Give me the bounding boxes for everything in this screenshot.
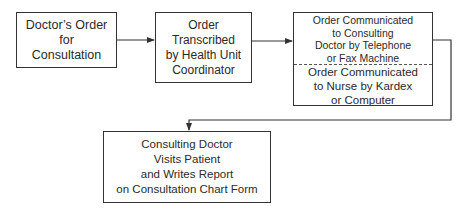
node-text: Consultation: [32, 48, 102, 63]
node-text: to Consulting: [332, 27, 393, 40]
node-order-communicated: Order Communicated to Consulting Doctor …: [293, 12, 433, 106]
section-to-nurse: Order Communicated to Nurse by Kardex or…: [294, 65, 432, 107]
node-text: or Computer: [331, 93, 395, 107]
node-text: Consulting Doctor: [141, 137, 232, 152]
node-text: Transcribed: [172, 33, 235, 48]
node-order-transcribed: Order Transcribed by Health Unit Coordin…: [155, 12, 252, 83]
node-text: and Writes Report: [141, 167, 233, 182]
node-consulting-doctor-visits: Consulting Doctor Visits Patient and Wri…: [103, 131, 271, 203]
node-text: or Fax Machine: [327, 52, 399, 65]
node-text: Doctor by Telephone: [315, 39, 411, 52]
node-text: Visits Patient: [154, 152, 220, 167]
node-text: on Consultation Chart Form: [116, 182, 257, 197]
node-text: Doctor’s Order: [26, 18, 108, 33]
node-text: Coordinator: [172, 63, 235, 78]
node-text: Order Communicated: [313, 14, 413, 27]
node-text: by Health Unit: [166, 48, 241, 63]
node-doctors-order: Doctor’s Order for Consultation: [16, 12, 117, 68]
node-text: to Nurse by Kardex: [314, 79, 412, 93]
node-text: Order Communicated: [308, 65, 418, 79]
section-to-consulting-doctor: Order Communicated to Consulting Doctor …: [294, 13, 432, 64]
node-text: Order: [188, 18, 219, 33]
node-text: for: [59, 33, 74, 48]
